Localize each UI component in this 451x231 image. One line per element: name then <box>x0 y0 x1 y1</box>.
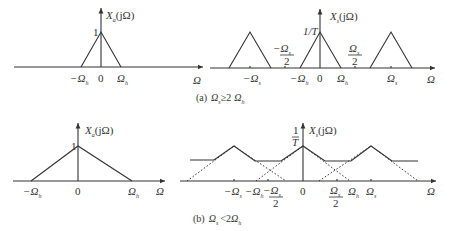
tick-neg-omega-s: −Ωs <box>243 72 261 86</box>
tick-omega-h: Ωh <box>117 72 128 86</box>
svg-text:2: 2 <box>352 55 358 67</box>
tick-neg-omega-h: −Ωh <box>23 185 41 199</box>
caption-a: (a)Ωs≥2Ωh <box>196 92 244 105</box>
replica-neg-omega-s <box>229 32 271 68</box>
peak-label-1-over-T: 1 T <box>292 124 299 148</box>
tick-omega-s-half: Ωs 2 <box>329 184 343 209</box>
title-xa: Xa(jΩ) <box>84 124 114 138</box>
peak-label: 1/T <box>303 25 319 37</box>
tick-zero: 0 <box>98 72 104 84</box>
svg-text:Ωs: Ωs <box>349 42 360 56</box>
tick-omega-s: Ωs <box>387 72 398 86</box>
tick-zero: 0 <box>300 185 306 197</box>
panel-b-original-spectrum: Xa(jΩ) 1 −Ωh 0 Ωh Ω <box>13 123 165 199</box>
title-xs: Xs(jΩ) <box>308 124 337 138</box>
tick-omega-h: Ωh <box>337 72 348 86</box>
replica-omega-s <box>370 32 412 68</box>
axis-label-omega: Ω <box>427 185 435 197</box>
tick-omega-h: Ωh <box>348 185 359 199</box>
svg-text:−Ωs: −Ωs <box>263 184 281 198</box>
tick-neg-omega-h: −Ωh <box>290 72 308 86</box>
peak-label: 1 <box>71 140 77 152</box>
caption-b: (b)Ωs<2Ωh <box>193 213 241 226</box>
title-xa: Xa(jΩ) <box>105 9 135 23</box>
sampling-spectrum-diagram: Xa(jΩ) 1 −Ωh 0 Ωh Ω Xs(jΩ) 1/T −Ωs 2 Ωs … <box>0 0 451 231</box>
tick-omega-s: Ωs <box>366 185 377 199</box>
svg-text:1: 1 <box>293 124 299 136</box>
svg-text:2: 2 <box>284 55 290 67</box>
tick-omega-h: Ωh <box>128 185 139 199</box>
panel-b-sampled-spectrum: Xs(jΩ) 1 T −Ωs −Ωh −Ωs 2 0 Ωs 2 Ωh Ωs Ω <box>180 123 436 209</box>
panel-a-original-spectrum: Xa(jΩ) 1 −Ωh 0 Ωh Ω <box>14 8 203 86</box>
tick-neg-omega-s-half: −Ωs 2 <box>263 184 283 209</box>
svg-text:−Ωs: −Ωs <box>273 42 291 56</box>
title-xs: Xs(jΩ) <box>329 10 358 24</box>
peak-label: 1 <box>93 26 99 38</box>
tick-omega-s-half: Ωs 2 <box>348 42 362 67</box>
tick-zero: 0 <box>317 72 323 84</box>
baseband-triangle <box>31 146 132 181</box>
tick-neg-omega-s: −Ωs <box>224 185 242 199</box>
axis-label-omega: Ω <box>193 74 201 86</box>
svg-text:2: 2 <box>273 197 279 209</box>
axis-label-omega: Ω <box>156 185 164 197</box>
aliased-sum-spectrum <box>190 146 418 161</box>
tick-neg-omega-h: −Ωh <box>70 72 88 86</box>
svg-text:T: T <box>292 136 299 148</box>
axis-label-omega: Ω <box>427 73 435 85</box>
tick-neg-omega-h: −Ωh <box>245 185 263 199</box>
svg-text:2: 2 <box>333 197 339 209</box>
tick-neg-omega-s-half: −Ωs 2 <box>273 42 294 67</box>
svg-text:Ωs: Ωs <box>330 184 341 198</box>
panel-a-sampled-spectrum: Xs(jΩ) 1/T −Ωs 2 Ωs 2 −Ωs −Ωh 0 Ωh Ωs Ω <box>210 9 435 86</box>
tick-zero: 0 <box>75 185 81 197</box>
